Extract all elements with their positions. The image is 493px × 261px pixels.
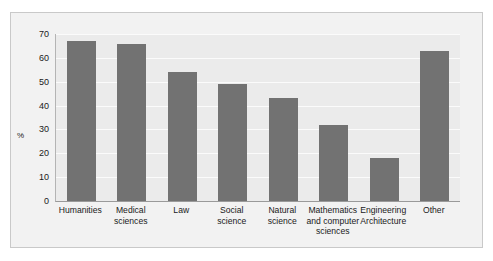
y-axis-tick-label: 60 (23, 53, 49, 62)
y-axis: 010203040506070 (15, 34, 49, 201)
bar (67, 41, 96, 201)
bar (370, 158, 399, 201)
y-axis-tick-label: 40 (23, 101, 49, 110)
y-axis-tick-label: 10 (23, 173, 49, 182)
bar (269, 98, 298, 201)
chart-figure: % 010203040506070 HumanitiesMedicalscien… (10, 12, 483, 248)
gridline (56, 34, 460, 35)
x-axis-tick-label-line: Architecture (352, 216, 415, 227)
x-axis-tick-label: Other (403, 205, 466, 216)
plot-area (55, 34, 460, 202)
x-axis-tick-label-line: sciences (100, 216, 163, 227)
y-axis-tick-label: 30 (23, 125, 49, 134)
x-axis: HumanitiesMedicalsciencesLawSocialscienc… (55, 205, 459, 245)
bar (319, 125, 348, 201)
bar (420, 51, 449, 201)
y-axis-tick-label: 70 (23, 30, 49, 39)
bar (218, 84, 247, 201)
bar (168, 72, 197, 201)
bar (117, 44, 146, 201)
y-axis-tick-label: 50 (23, 77, 49, 86)
y-axis-tick-label: 20 (23, 149, 49, 158)
x-axis-tick-label-line: Other (403, 205, 466, 216)
y-axis-tick-label: 0 (23, 197, 49, 206)
x-axis-tick-label-line: sciences (302, 226, 365, 237)
